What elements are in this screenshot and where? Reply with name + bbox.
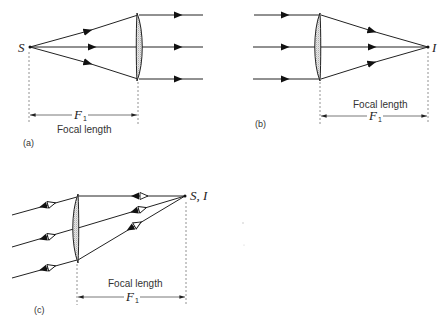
focal-subscript-b: 1	[378, 116, 382, 123]
rays-incident-a	[30, 15, 138, 79]
rays-collimated-b	[253, 15, 319, 79]
lens-b	[315, 13, 321, 81]
scan-speck	[243, 244, 244, 245]
source-image-label-c: S, I	[190, 188, 208, 203]
focal-symbol-c: F	[125, 289, 135, 304]
source-point-a	[29, 46, 32, 49]
focal-caption-c: Focal length	[108, 278, 162, 289]
image-point-b	[427, 46, 430, 49]
source-label-a: S	[18, 40, 25, 55]
rays-outer-c	[12, 197, 77, 278]
lens-c	[73, 194, 79, 263]
focal-subscript-c: 1	[135, 297, 139, 304]
scan-speck	[242, 222, 243, 223]
panel-label-c: (c)	[34, 305, 45, 315]
rays-focal-c	[78, 193, 185, 261]
panel-c: S, I Focal length F 1 (c)	[12, 188, 208, 315]
focal-subscript-a: 1	[83, 115, 87, 122]
source-image-point-c	[184, 195, 187, 198]
focal-caption-b: Focal length	[353, 99, 407, 110]
panel-label-b: (b)	[255, 119, 266, 129]
focal-caption-a: Focal length	[57, 124, 111, 135]
panel-a: S F 1 Focal length (a)	[18, 13, 203, 148]
focal-symbol-b: F	[368, 108, 378, 123]
rays-converging-b	[321, 15, 428, 79]
panel-label-a: (a)	[23, 138, 34, 148]
focal-symbol-a: F	[73, 107, 83, 122]
panel-b: I Focal length F 1 (b)	[253, 13, 437, 129]
optics-diagram: S F 1 Focal length (a) I Focal length F	[0, 0, 446, 330]
lens-a	[136, 13, 142, 81]
rays-collimated-a	[139, 15, 203, 79]
image-label-b: I	[431, 40, 437, 55]
